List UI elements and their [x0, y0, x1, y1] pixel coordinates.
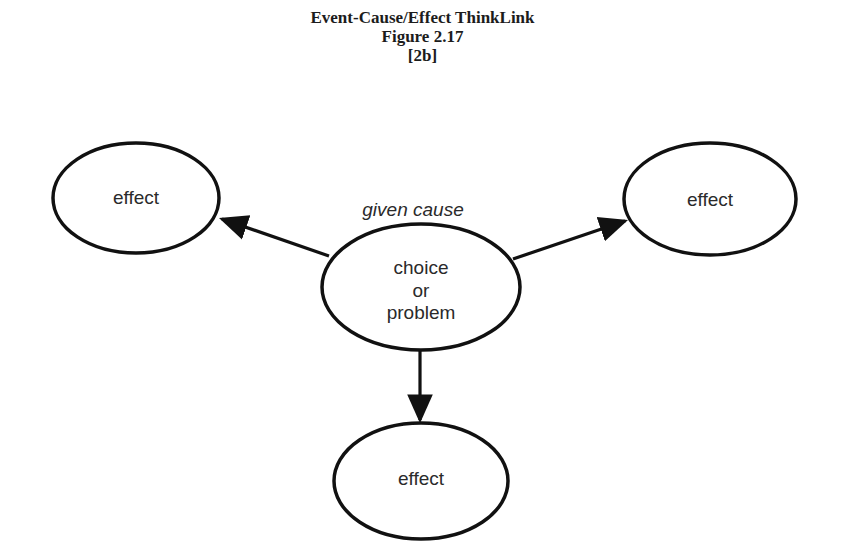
effect-node-bottom: effect: [334, 423, 508, 539]
arrow-to-right-effect: [513, 221, 625, 259]
effect-label-right: effect: [687, 189, 734, 210]
effect-node-right: effect: [624, 143, 796, 255]
effect-label-bottom: effect: [398, 468, 445, 489]
given-cause-label: given cause: [362, 199, 463, 220]
cause-label-line1: choice: [394, 257, 449, 278]
cause-node-center: choice or problem: [322, 224, 520, 350]
effect-label-left: effect: [113, 187, 160, 208]
effect-node-left: effect: [53, 143, 219, 253]
arrow-to-left-effect: [222, 219, 329, 256]
cause-label-line3: problem: [387, 302, 456, 323]
cause-label-line2: or: [413, 280, 431, 301]
cause-effect-diagram: effect effect given cause choice or prob…: [0, 0, 845, 559]
